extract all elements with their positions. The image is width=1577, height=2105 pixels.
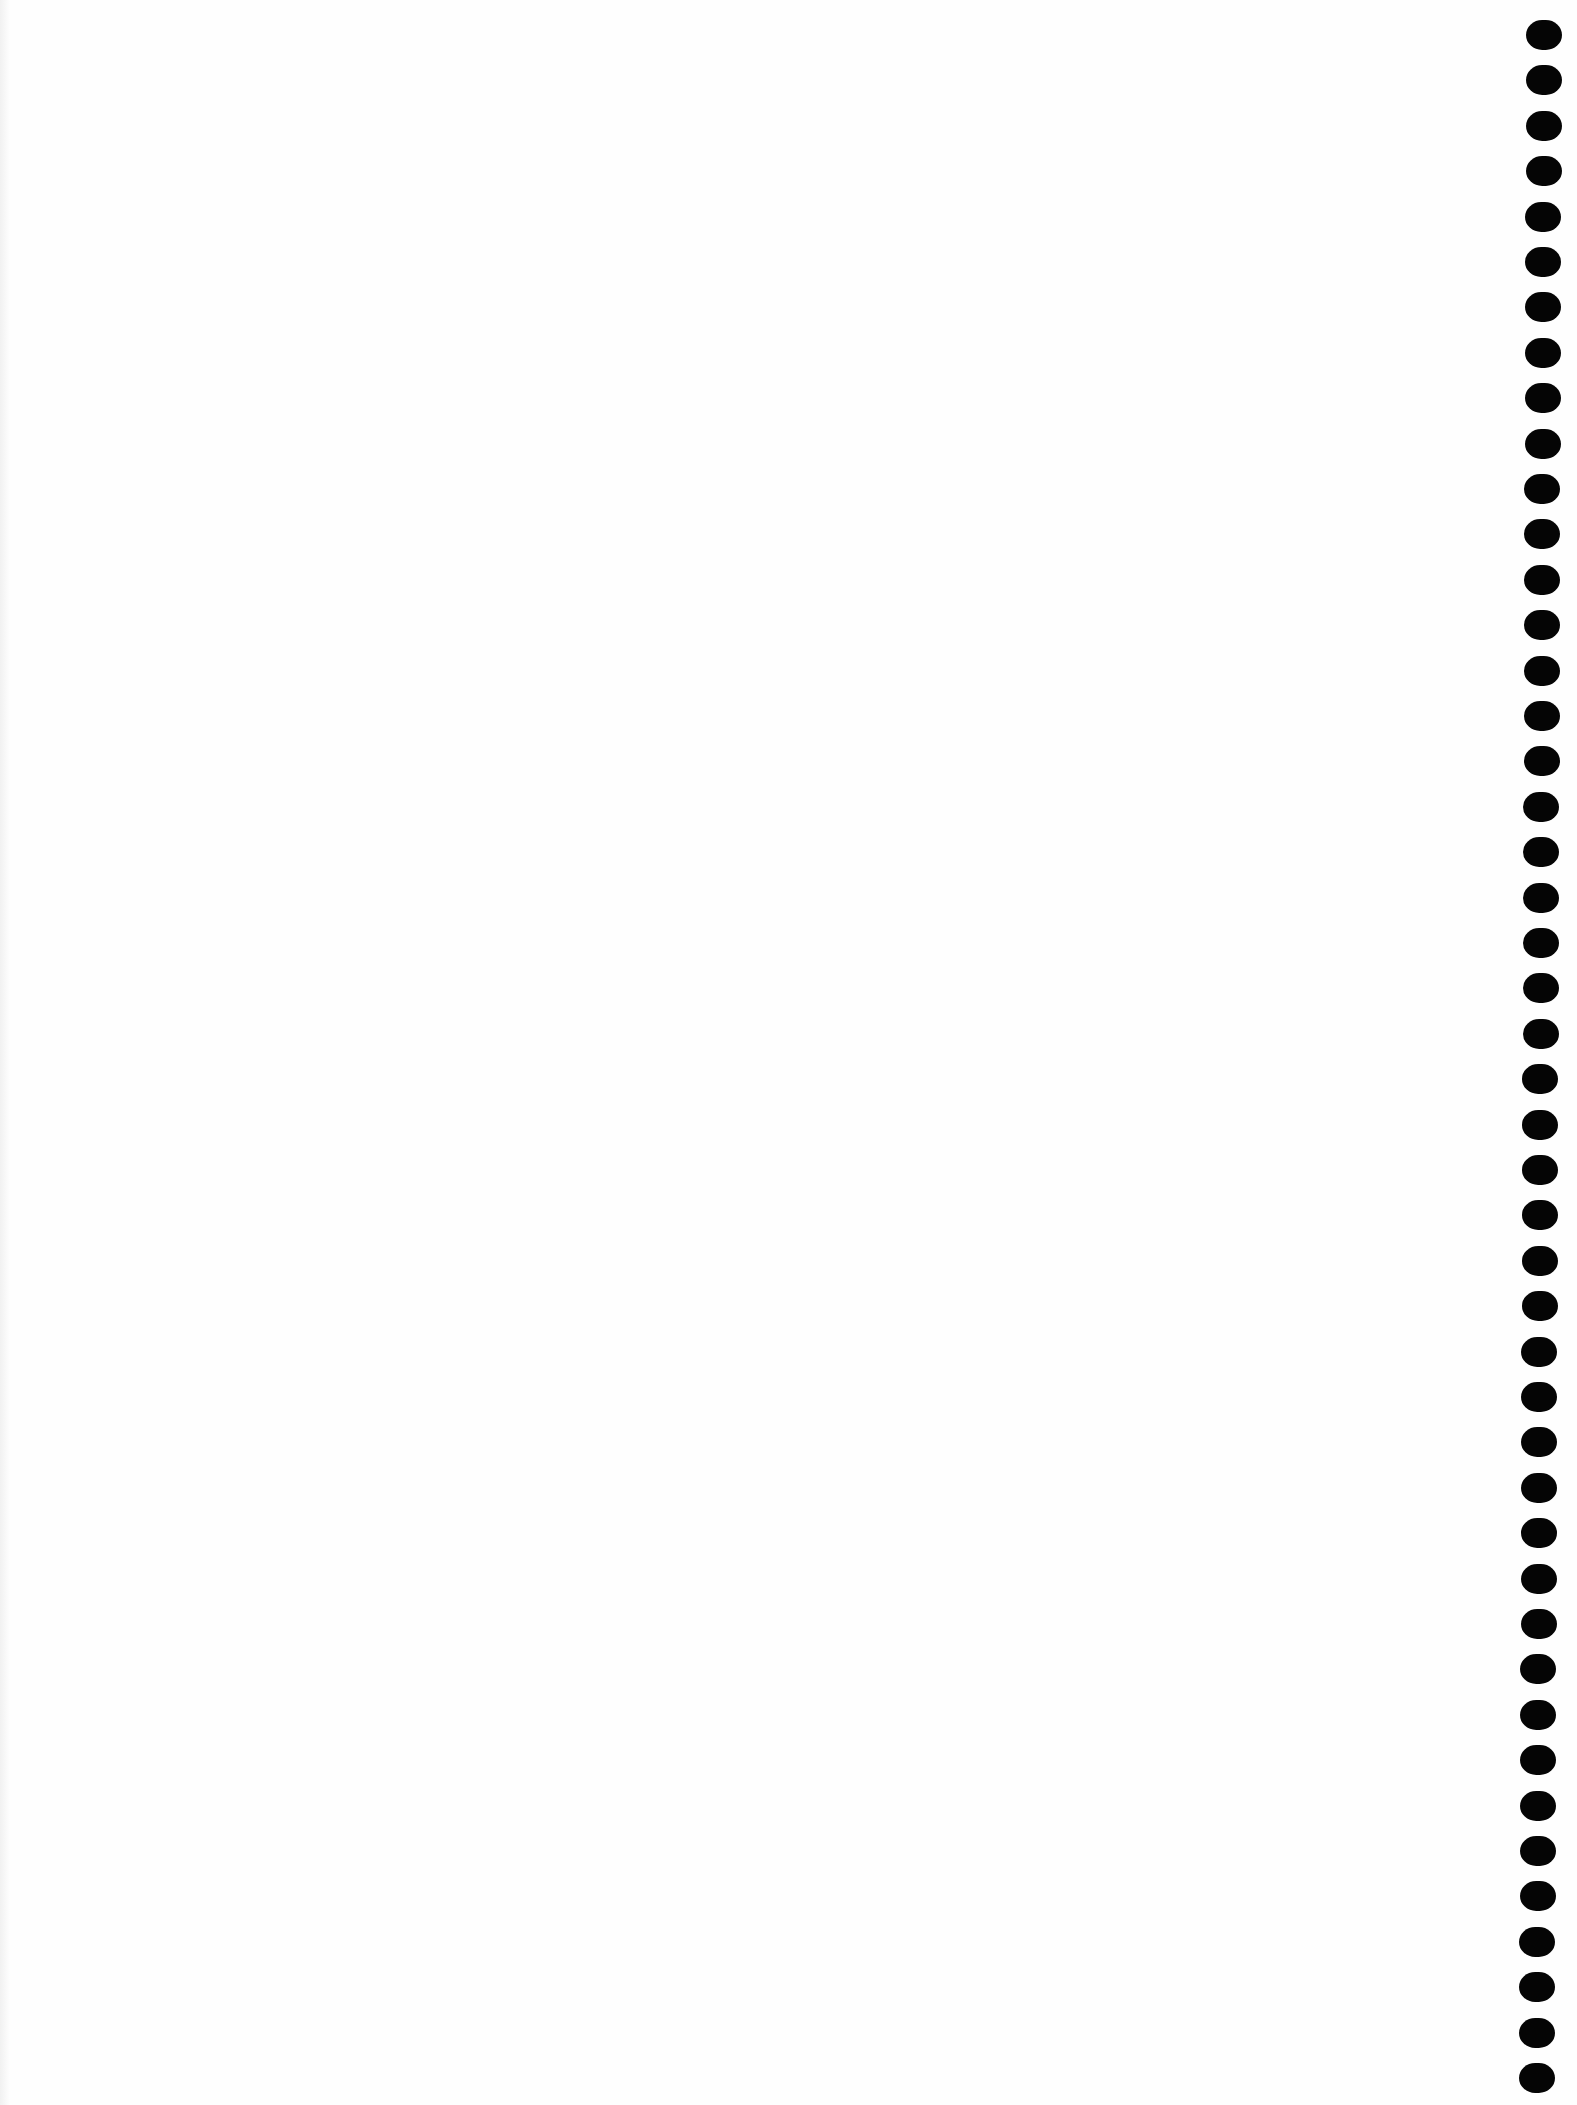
- binding-hole-icon: [1522, 1200, 1558, 1230]
- binding-hole-icon: [1519, 2063, 1555, 2093]
- binding-hole-icon: [1523, 928, 1559, 958]
- binding-hole-icon: [1521, 1473, 1557, 1503]
- binding-hole-icon: [1521, 1609, 1557, 1639]
- binding-hole-icon: [1523, 837, 1559, 867]
- binding-hole-icon: [1520, 1700, 1556, 1730]
- binding-hole-icon: [1521, 1427, 1557, 1457]
- binding-hole-icon: [1525, 292, 1561, 322]
- binding-hole-icon: [1519, 1927, 1555, 1957]
- binding-hole-icon: [1521, 1518, 1557, 1548]
- binding-hole-icon: [1525, 383, 1561, 413]
- binding-hole-icon: [1523, 883, 1559, 913]
- binding-hole-icon: [1522, 1246, 1558, 1276]
- binding-hole-icon: [1519, 2018, 1555, 2048]
- binding-hole-icon: [1521, 1382, 1557, 1412]
- binding-hole-icon: [1524, 746, 1560, 776]
- binding-hole-icon: [1524, 656, 1560, 686]
- spiral-binding-holes: [0, 0, 1577, 2105]
- binding-hole-icon: [1519, 1972, 1555, 2002]
- binding-hole-icon: [1525, 247, 1561, 277]
- binding-hole-icon: [1526, 156, 1562, 186]
- binding-hole-icon: [1520, 1791, 1556, 1821]
- binding-hole-icon: [1520, 1881, 1556, 1911]
- binding-hole-icon: [1521, 1337, 1557, 1367]
- binding-hole-icon: [1523, 792, 1559, 822]
- binding-hole-icon: [1524, 610, 1560, 640]
- binding-hole-icon: [1525, 429, 1561, 459]
- binding-hole-icon: [1524, 701, 1560, 731]
- binding-hole-icon: [1526, 65, 1562, 95]
- binding-hole-icon: [1524, 565, 1560, 595]
- binding-hole-icon: [1525, 338, 1561, 368]
- binding-hole-icon: [1526, 111, 1562, 141]
- binding-hole-icon: [1525, 202, 1561, 232]
- binding-hole-icon: [1521, 1564, 1557, 1594]
- binding-hole-icon: [1522, 1155, 1558, 1185]
- binding-hole-icon: [1520, 1745, 1556, 1775]
- binding-hole-icon: [1522, 1064, 1558, 1094]
- binding-hole-icon: [1520, 1836, 1556, 1866]
- binding-hole-icon: [1522, 1110, 1558, 1140]
- notebook-page: [0, 0, 1577, 2105]
- binding-hole-icon: [1520, 1654, 1556, 1684]
- binding-hole-icon: [1522, 1291, 1558, 1321]
- binding-hole-icon: [1524, 519, 1560, 549]
- binding-hole-icon: [1523, 973, 1559, 1003]
- binding-hole-icon: [1524, 474, 1560, 504]
- binding-hole-icon: [1523, 1019, 1559, 1049]
- binding-hole-icon: [1526, 20, 1562, 50]
